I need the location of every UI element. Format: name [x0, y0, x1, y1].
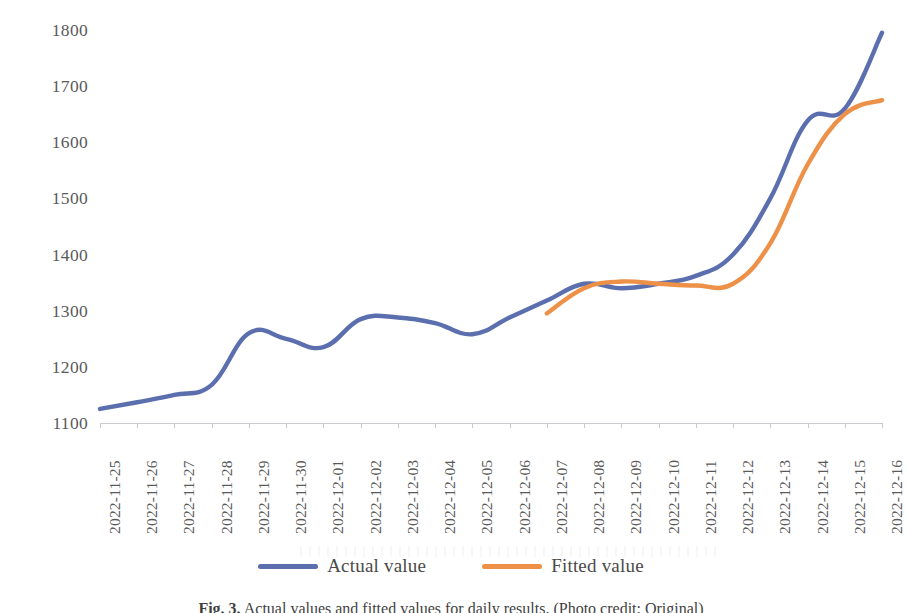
x-tick-mark [472, 423, 473, 428]
y-tick-label: 1400 [52, 244, 88, 265]
x-tick-mark [808, 423, 809, 428]
legend-swatch-fitted-icon [482, 564, 542, 569]
x-tick-label: 2022-12-04 [441, 460, 459, 534]
y-axis: 18001700160015001400130012001100 [0, 30, 100, 423]
x-tick-label: 2022-11-30 [292, 460, 310, 534]
x-tick-mark [137, 423, 138, 428]
x-tick-mark [621, 423, 622, 428]
y-tick-label: 1600 [52, 132, 88, 153]
y-tick-label: 1200 [52, 356, 88, 377]
x-tick-label: 2022-12-14 [814, 460, 832, 534]
x-tick-mark [249, 423, 250, 428]
plot-area [100, 30, 882, 423]
x-axis-labels: 2022-11-252022-11-262022-11-272022-11-28… [100, 430, 882, 538]
series-line-actual-value [100, 33, 882, 409]
y-tick-label: 1700 [52, 76, 88, 97]
x-tick-label: 2022-12-02 [367, 460, 385, 534]
chart-legend: Actual value Fitted value [0, 552, 902, 580]
x-tick-label: 2022-11-27 [180, 460, 198, 534]
x-tick-mark [100, 423, 101, 428]
x-tick-mark [659, 423, 660, 428]
x-tick-mark [547, 423, 548, 428]
x-tick-mark [882, 423, 883, 428]
x-tick-label: 2022-11-26 [143, 460, 161, 534]
x-tick-label: 2022-12-16 [888, 460, 906, 534]
legend-item-actual-value[interactable]: Actual value [258, 555, 426, 577]
y-tick-label: 1500 [52, 188, 88, 209]
x-tick-mark [696, 423, 697, 428]
x-tick-label: 2022-12-01 [329, 460, 347, 534]
x-tick-mark [733, 423, 734, 428]
legend-item-fitted-value[interactable]: Fitted value [482, 555, 644, 577]
legend-swatch-actual-icon [258, 564, 318, 569]
x-tick-label: 2022-12-12 [739, 460, 757, 534]
figure-caption-number: Fig. 3. [198, 600, 240, 613]
x-tick-mark [584, 423, 585, 428]
legend-label-fitted-value: Fitted value [551, 555, 644, 577]
x-tick-mark [323, 423, 324, 428]
x-tick-label: 2022-12-05 [478, 460, 496, 534]
x-tick-mark [770, 423, 771, 428]
x-tick-mark [398, 423, 399, 428]
x-tick-label: 2022-12-11 [702, 460, 720, 534]
x-tick-mark [174, 423, 175, 428]
x-tick-mark [435, 423, 436, 428]
figure-caption: Fig. 3. Actual values and fitted values … [0, 600, 902, 613]
x-tick-label: 2022-12-09 [627, 460, 645, 534]
figure-caption-text: Actual values and fitted values for dail… [244, 600, 704, 613]
series-line-fitted-value [547, 100, 882, 313]
x-tick-label: 2022-12-15 [851, 460, 869, 534]
x-tick-label: 2022-12-13 [776, 460, 794, 534]
x-tick-mark [361, 423, 362, 428]
x-tick-mark [845, 423, 846, 428]
x-tick-label: 2022-12-06 [516, 460, 534, 534]
x-tick-mark [286, 423, 287, 428]
x-tick-label: 2022-12-07 [553, 460, 571, 534]
x-tick-label: 2022-11-25 [106, 460, 124, 534]
series-layer [100, 30, 882, 423]
x-tick-label: 2022-12-10 [665, 460, 683, 534]
y-tick-label: 1800 [52, 20, 88, 41]
x-axis-ticks [100, 423, 882, 428]
x-tick-mark [510, 423, 511, 428]
x-tick-label: 2022-11-28 [218, 460, 236, 534]
x-tick-label: 2022-12-03 [404, 460, 422, 534]
y-tick-label: 1100 [52, 413, 88, 434]
y-tick-label: 1300 [52, 300, 88, 321]
x-tick-mark [212, 423, 213, 428]
x-tick-label: 2022-11-29 [255, 460, 273, 534]
legend-label-actual-value: Actual value [327, 555, 426, 577]
x-tick-label: 2022-12-08 [590, 460, 608, 534]
